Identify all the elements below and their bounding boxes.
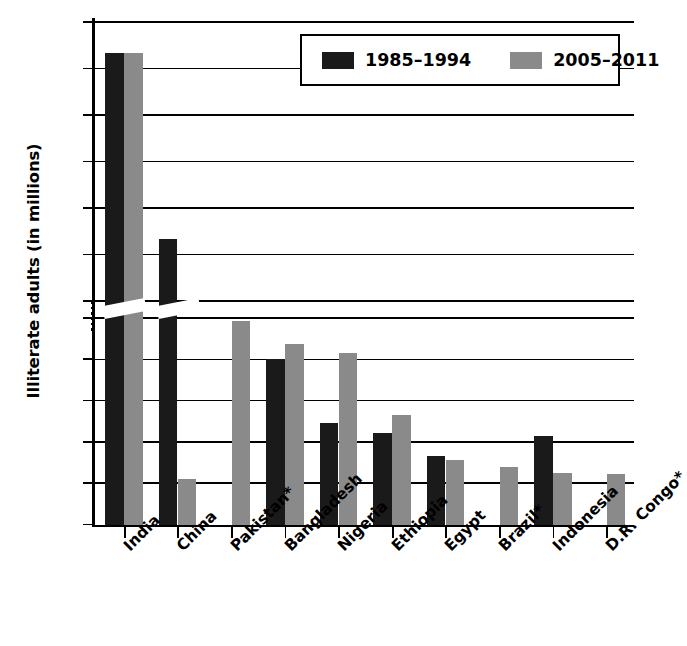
- bar-group-india[interactable]: [105, 18, 142, 525]
- y-tick-275: [83, 68, 94, 70]
- y-tick-250: [83, 114, 94, 116]
- y-tick-40: [83, 358, 94, 360]
- bar-group-egypt[interactable]: [427, 18, 464, 525]
- bar-group-pakistan[interactable]: [213, 18, 250, 525]
- bar-group-d-r-congo[interactable]: [588, 18, 625, 525]
- bar-group-brazil[interactable]: [481, 18, 518, 525]
- bar-pakistan-2005-2011[interactable]: [232, 321, 251, 525]
- y-tick-0: [83, 524, 94, 526]
- bar-group-bangladesh[interactable]: [266, 18, 303, 525]
- legend-label-0: 1985–1994: [365, 50, 471, 70]
- bar-ethiopia-2005-2011[interactable]: [392, 415, 411, 525]
- legend-label-1: 2005–2011: [553, 50, 659, 70]
- axis-break-dots: [91, 301, 94, 333]
- bar-group-nigeria[interactable]: [320, 18, 357, 525]
- bar-india-1985-1994[interactable]: [105, 53, 124, 525]
- legend-swatch-black: [322, 52, 354, 69]
- y-axis-line: [92, 18, 95, 527]
- plot-area: 30027525022520017515050403020100 IndiaCh…: [92, 18, 634, 527]
- legend-swatch-gray: [510, 52, 542, 69]
- y-axis-title: Illiterate adults (in millions): [21, 71, 47, 471]
- bar-indonesia-2005-2011[interactable]: [553, 473, 572, 524]
- bar-brazil-2005-2011[interactable]: [500, 467, 519, 525]
- y-tick-20: [83, 441, 94, 443]
- bar-group-indonesia[interactable]: [534, 18, 571, 525]
- bar-egypt-2005-2011[interactable]: [446, 460, 465, 524]
- y-tick-300: [83, 21, 94, 23]
- y-tick-225: [83, 161, 94, 163]
- y-tick-10: [83, 482, 94, 484]
- legend: 1985–19942005–2011: [300, 34, 620, 86]
- bar-china-1985-1994[interactable]: [159, 239, 178, 525]
- legend-item-1[interactable]: 2005–2011: [510, 50, 659, 70]
- bar-india-2005-2011[interactable]: [124, 53, 143, 525]
- bar-china-2005-2011[interactable]: [178, 479, 197, 525]
- legend-item-0[interactable]: 1985–1994: [322, 50, 471, 70]
- y-tick-175: [83, 254, 94, 256]
- bar-group-china[interactable]: [159, 18, 196, 525]
- bar-group-ethiopia[interactable]: [373, 18, 410, 525]
- y-tick-30: [83, 400, 94, 402]
- y-tick-200: [83, 207, 94, 209]
